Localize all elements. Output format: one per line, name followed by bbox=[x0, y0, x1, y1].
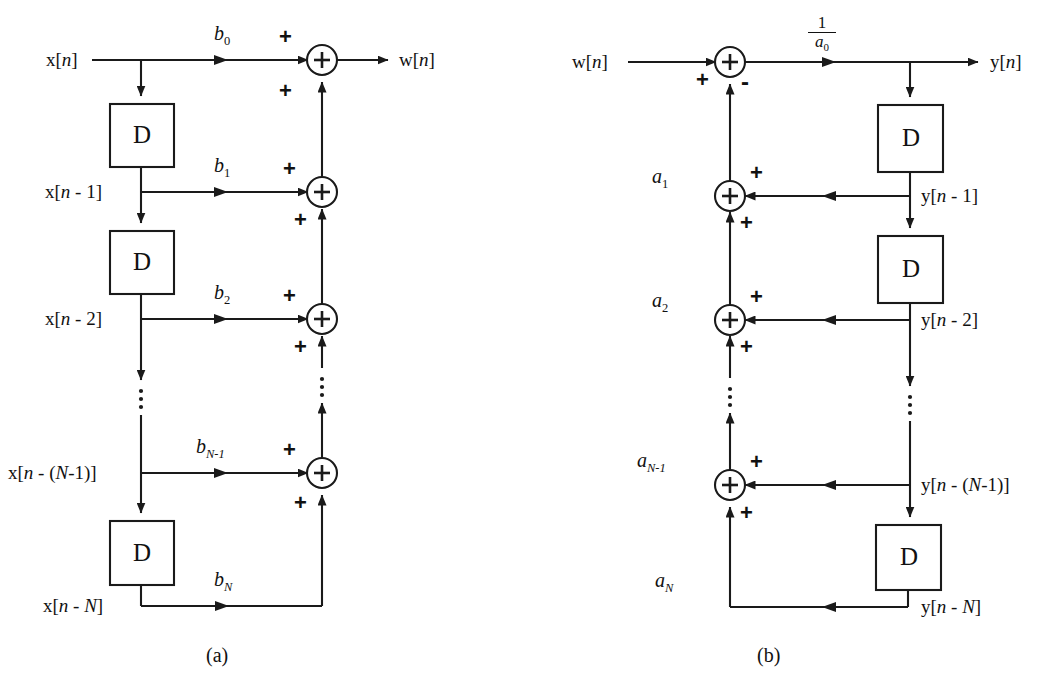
delay-block-b-3-label: D bbox=[900, 544, 918, 569]
coefficient-label-a-b2: b2 bbox=[214, 282, 230, 307]
signal-label-a-output: w[n] bbox=[399, 50, 435, 69]
coefficient-base: a bbox=[652, 165, 662, 187]
coefficient-label-b-aN: aN bbox=[655, 570, 673, 595]
signal-label-b-tap-1: y[n - 1] bbox=[921, 186, 978, 205]
signal-label-b-input: w[n] bbox=[572, 52, 608, 71]
delay-block-b-2-label: D bbox=[902, 256, 920, 281]
coefficient-base: b bbox=[214, 281, 224, 303]
sign-label-b-1-top: + bbox=[750, 162, 763, 184]
sign-label-b-1-bottom: + bbox=[740, 212, 753, 234]
coefficient-label-a-bN1: bN-1 bbox=[196, 436, 225, 461]
delay-block-a-2-label: D bbox=[133, 249, 151, 274]
coefficient-label-a-b0: b0 bbox=[214, 23, 230, 48]
signal-label-b-tap-2: y[n - 2] bbox=[921, 310, 978, 329]
sign-label-a-3-top: + bbox=[283, 285, 296, 307]
coefficient-sub: N bbox=[224, 580, 232, 594]
summer-a-4 bbox=[307, 458, 337, 488]
summer-a-3 bbox=[307, 304, 337, 334]
sign-label-b-3-top: + bbox=[750, 451, 763, 473]
subfigure-a-caption: (a) bbox=[206, 645, 228, 665]
signal-label-b-tap-4: y[n - N] bbox=[921, 597, 981, 616]
coefficient-base: b bbox=[214, 568, 224, 590]
sign-label-a-4-bottom: + bbox=[294, 492, 307, 514]
sign-label-b-3-bottom: + bbox=[740, 502, 753, 524]
sign-label-b-input: + bbox=[696, 69, 709, 91]
sign-label-a-4-top: + bbox=[283, 439, 296, 461]
summer-a-1 bbox=[307, 45, 337, 75]
signal-label-a-tap-3: x[n - (N-1)] bbox=[8, 463, 97, 482]
coefficient-base: b bbox=[214, 22, 224, 44]
delay-block-b-1-label: D bbox=[902, 125, 920, 150]
sign-label-a-3-bottom: + bbox=[294, 336, 307, 358]
signal-label-a-tap-1: x[n - 1] bbox=[45, 182, 102, 201]
coefficient-sub: N bbox=[665, 581, 673, 595]
coefficient-sub: N-1 bbox=[206, 447, 225, 461]
coefficient-sub: 2 bbox=[224, 293, 230, 307]
coefficient-sub: 2 bbox=[662, 301, 668, 315]
coefficient-sub: N-1 bbox=[647, 461, 666, 475]
sign-label-b-2-bottom: + bbox=[740, 336, 753, 358]
summer-a-2 bbox=[307, 177, 337, 207]
sign-label-b-feedback: - bbox=[741, 70, 749, 94]
coefficient-base: b bbox=[196, 435, 206, 457]
coefficient-label-a-bN: bN bbox=[214, 569, 232, 594]
sign-label-a-1-top: + bbox=[279, 26, 292, 48]
coefficient-label-a-b1: b1 bbox=[214, 155, 230, 180]
signal-label-a-tap-4: x[n - N] bbox=[43, 596, 103, 615]
gain-denominator: a0 bbox=[808, 32, 836, 54]
signal-label-a-input: x[n] bbox=[46, 50, 78, 69]
gain-label-b-inverse-a0: 1 a0 bbox=[808, 14, 836, 54]
summer-b-4 bbox=[715, 470, 745, 500]
signal-label-b-output: y[n] bbox=[990, 52, 1022, 71]
coefficient-label-b-a1: a1 bbox=[652, 166, 668, 191]
delay-block-a-3-label: D bbox=[133, 540, 151, 565]
figure-canvas: D D D x[n] w[n] x[n - 1] x[n - 2] x[n - … bbox=[0, 0, 1049, 692]
delay-block-a-1-label: D bbox=[133, 122, 151, 147]
sign-label-b-2-top: + bbox=[750, 286, 763, 308]
coefficient-base: a bbox=[655, 569, 665, 591]
subfigure-b-caption: (b) bbox=[757, 645, 780, 665]
signal-label-a-tap-2: x[n - 2] bbox=[45, 309, 102, 328]
coefficient-sub: 1 bbox=[224, 166, 230, 180]
sign-label-a-2-bottom: + bbox=[294, 209, 307, 231]
summer-b-3 bbox=[715, 305, 745, 335]
coefficient-base: a bbox=[652, 289, 662, 311]
signal-label-b-tap-3: y[n - (N-1)] bbox=[921, 475, 1010, 494]
summer-b-2 bbox=[715, 181, 745, 211]
coefficient-base: b bbox=[214, 154, 224, 176]
gain-numerator: 1 bbox=[808, 14, 836, 32]
diagram-vector-layer bbox=[0, 0, 1049, 692]
coefficient-sub: 1 bbox=[662, 177, 668, 191]
coefficient-base: a bbox=[637, 449, 647, 471]
sign-label-a-1-bottom: + bbox=[279, 80, 292, 102]
sign-label-a-2-top: + bbox=[283, 158, 296, 180]
coefficient-label-b-a2: a2 bbox=[652, 290, 668, 315]
coefficient-label-b-aN1: aN-1 bbox=[637, 450, 666, 475]
coefficient-sub: 0 bbox=[224, 34, 230, 48]
